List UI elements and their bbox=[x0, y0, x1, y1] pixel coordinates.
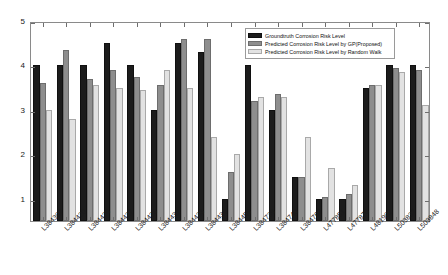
y-tick-mark bbox=[31, 201, 35, 202]
bar bbox=[46, 110, 52, 221]
x-tick-mark-top bbox=[419, 23, 420, 27]
x-tick-mark bbox=[160, 217, 161, 221]
y-tick-label: 1 bbox=[21, 194, 25, 205]
x-tick-mark bbox=[90, 217, 91, 221]
bar-group-L384427 bbox=[104, 23, 123, 221]
bar-group-L384432 bbox=[151, 23, 170, 221]
bar-group-L384428 bbox=[127, 23, 146, 221]
bar bbox=[375, 85, 381, 221]
x-tick-mark bbox=[113, 217, 114, 221]
legend-swatch-icon bbox=[248, 49, 262, 54]
y-tick-label: 5 bbox=[21, 16, 25, 27]
bar bbox=[305, 137, 311, 221]
x-tick-mark bbox=[419, 217, 420, 221]
bar bbox=[234, 154, 240, 221]
x-tick-mark bbox=[255, 217, 256, 221]
x-tick-mark-top bbox=[184, 23, 185, 27]
x-tick-mark-top bbox=[207, 23, 208, 27]
x-tick-mark bbox=[231, 217, 232, 221]
x-tick-mark bbox=[278, 217, 279, 221]
bar-chart-figure: 12345 L384307L384420L384426L384427L38442… bbox=[0, 0, 448, 275]
y-tick-mark-right bbox=[425, 156, 429, 157]
bar bbox=[328, 168, 334, 221]
bar bbox=[164, 70, 170, 221]
bar bbox=[211, 137, 217, 221]
bar-group-L384307 bbox=[33, 23, 52, 221]
x-tick-mark-top bbox=[90, 23, 91, 27]
x-tick-mark bbox=[137, 217, 138, 221]
x-tick-mark bbox=[349, 217, 350, 221]
bar-group-L384433 bbox=[175, 23, 194, 221]
y-tick-label: 2 bbox=[21, 149, 25, 160]
legend-item-1[interactable]: Predicted Corrosion Risk Level by GP(Pro… bbox=[248, 40, 391, 47]
legend-swatch-icon bbox=[248, 33, 262, 38]
x-tick-mark bbox=[207, 217, 208, 221]
bar-group-L384426 bbox=[80, 23, 99, 221]
bar-group-L503848 bbox=[410, 23, 429, 221]
legend-item-0[interactable]: Groundtruth Corrosion Risk Level bbox=[248, 32, 391, 39]
x-tick-mark-top bbox=[325, 23, 326, 27]
x-tick-mark-top bbox=[302, 23, 303, 27]
x-tick-mark-top bbox=[396, 23, 397, 27]
y-tick-mark bbox=[31, 67, 35, 68]
y-tick-mark bbox=[31, 156, 35, 157]
bar bbox=[116, 88, 122, 221]
x-tick-mark-top bbox=[43, 23, 44, 27]
y-tick-label: 3 bbox=[21, 105, 25, 116]
x-tick-mark bbox=[372, 217, 373, 221]
bar-group-L384459 bbox=[222, 23, 241, 221]
y-tick-mark-right bbox=[425, 67, 429, 68]
bar bbox=[187, 88, 193, 221]
y-tick-mark-right bbox=[425, 23, 429, 24]
x-tick-mark bbox=[396, 217, 397, 221]
y-tick-mark bbox=[31, 112, 35, 113]
legend-label: Groundtruth Corrosion Risk Level bbox=[265, 33, 345, 39]
chart-legend: Groundtruth Corrosion Risk LevelPredicte… bbox=[245, 28, 395, 59]
x-tick-mark-top bbox=[137, 23, 138, 27]
x-tick-mark-top bbox=[113, 23, 114, 27]
bar bbox=[399, 72, 405, 221]
x-tick-mark bbox=[302, 217, 303, 221]
legend-label: Predicted Corrosion Risk Level by GP(Pro… bbox=[265, 41, 382, 47]
y-tick-mark-right bbox=[425, 201, 429, 202]
legend-label: Predicted Corrosion Risk Level by Random… bbox=[265, 49, 381, 55]
legend-swatch-icon bbox=[248, 41, 262, 46]
x-tick-mark-top bbox=[349, 23, 350, 27]
y-tick-mark-right bbox=[425, 112, 429, 113]
bar bbox=[422, 105, 428, 221]
bar bbox=[258, 97, 264, 221]
x-tick-mark-top bbox=[278, 23, 279, 27]
x-tick-mark bbox=[325, 217, 326, 221]
x-tick-mark bbox=[43, 217, 44, 221]
bar bbox=[281, 97, 287, 221]
x-tick-mark-top bbox=[66, 23, 67, 27]
legend-item-2[interactable]: Predicted Corrosion Risk Level by Random… bbox=[248, 48, 391, 55]
x-tick-mark-top bbox=[255, 23, 256, 27]
bar bbox=[93, 85, 99, 221]
x-tick-mark bbox=[66, 217, 67, 221]
bar bbox=[69, 119, 75, 221]
x-tick-mark-top bbox=[372, 23, 373, 27]
x-tick-mark bbox=[184, 217, 185, 221]
y-tick-label: 4 bbox=[21, 60, 25, 71]
y-tick-mark bbox=[31, 23, 35, 24]
bar-group-L384436 bbox=[198, 23, 217, 221]
x-tick-mark-top bbox=[231, 23, 232, 27]
x-tick-mark-top bbox=[160, 23, 161, 27]
bar bbox=[140, 90, 146, 221]
bar-group-L384420 bbox=[57, 23, 76, 221]
